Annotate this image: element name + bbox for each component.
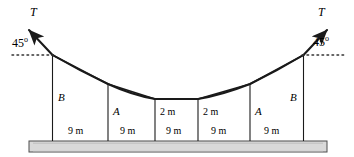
right-angle-label: 45o [313,36,329,48]
span-label-4: 9 m [211,126,226,136]
node-label-b-left: B [58,92,65,103]
right-tension-label: T [318,6,325,18]
span-label-2: 9 m [120,126,135,136]
left-tension-arrow [29,30,53,55]
sag-label-left: 2 m [160,107,175,117]
span-label-1: 9 m [68,126,83,136]
right-angle-value: 45 [313,35,325,49]
node-label-a-right: A [255,106,262,117]
cable-curve [53,55,304,99]
span-label-3: 9 m [166,126,181,136]
node-label-a-left: A [113,106,120,117]
span-label-5: 9 m [264,126,279,136]
sag-label-right: 2 m [203,107,218,117]
left-angle-label: 45o [12,37,28,49]
left-angle-unit: o [24,35,28,44]
node-label-b-right: B [290,92,297,103]
left-tension-label: T [30,6,37,18]
ground-bar [29,141,327,152]
cable-diagram-figure: T 45o T 45o B A 2 m 2 m A B 9 m 9 m 9 m … [0,0,354,157]
right-angle-unit: o [325,34,329,43]
left-angle-value: 45 [12,36,24,50]
